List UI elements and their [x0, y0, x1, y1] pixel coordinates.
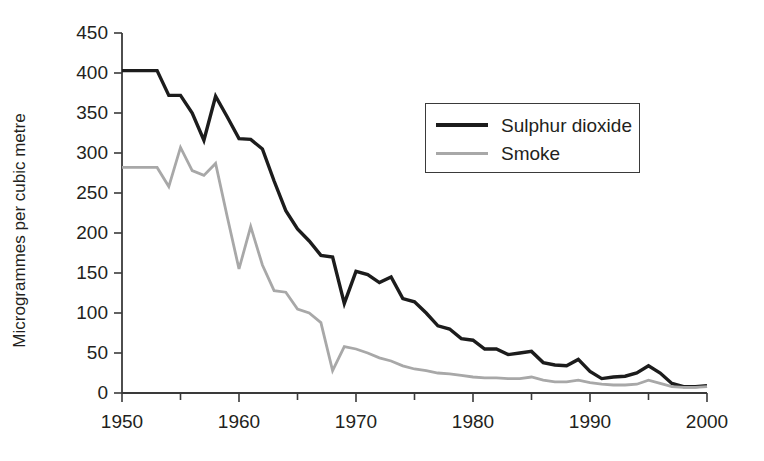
y-axis-tick-label: 350 [0, 102, 108, 124]
y-axis-tick-label: 100 [0, 302, 108, 324]
y-axis-tick-label: 400 [0, 62, 108, 84]
x-axis-tick-label: 1990 [569, 411, 611, 433]
x-axis-tick-label: 1980 [452, 411, 494, 433]
y-axis-tick-label: 300 [0, 142, 108, 164]
y-axis-tick-label: 200 [0, 222, 108, 244]
y-axis-ticks [114, 33, 122, 393]
y-axis-tick-label: 450 [0, 22, 108, 44]
y-axis-tick-label: 50 [0, 342, 108, 364]
chart-legend: Sulphur dioxide Smoke [425, 103, 640, 173]
line-chart-figure: Microgrammes per cubic metre 05010015020… [0, 0, 764, 461]
series-line-smoke [122, 147, 707, 387]
legend-item-smoke: Smoke [436, 140, 560, 166]
axes-group [122, 33, 707, 393]
x-axis-ticks [122, 393, 707, 402]
legend-label-sulphur-dioxide: Sulphur dioxide [501, 116, 632, 135]
chart-plot-area [0, 0, 764, 461]
legend-label-smoke: Smoke [501, 144, 560, 163]
legend-line-swatch-smoke [436, 152, 488, 155]
x-axis-tick-label: 1950 [101, 411, 143, 433]
y-axis-tick-label: 0 [0, 382, 108, 404]
legend-item-sulphur-dioxide: Sulphur dioxide [436, 112, 632, 138]
x-axis-tick-label: 1970 [335, 411, 377, 433]
x-axis-tick-label: 2000 [686, 411, 728, 433]
y-axis-tick-label: 150 [0, 262, 108, 284]
legend-line-swatch-sulphur-dioxide [436, 123, 488, 127]
y-axis-tick-label: 250 [0, 182, 108, 204]
x-axis-tick-label: 1960 [218, 411, 260, 433]
